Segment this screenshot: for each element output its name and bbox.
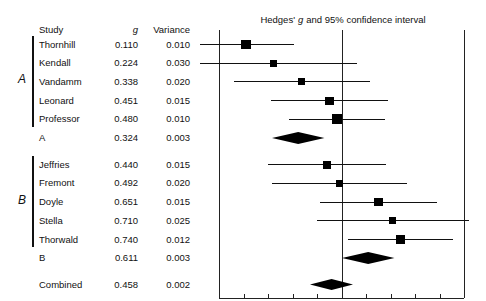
group-bracket-a	[32, 36, 34, 127]
plot-clip-region	[200, 0, 486, 298]
table-cell-g-vandamm: 0.338	[96, 76, 138, 87]
x-tick-0-8	[415, 294, 416, 298]
x-tick-0-1	[244, 294, 245, 298]
effect-marker-leonard	[325, 97, 333, 105]
effect-marker-vandamm	[298, 78, 305, 85]
table-row-study-leonard: Leonard	[39, 95, 74, 106]
table-cell-variance-b: 0.003	[146, 252, 190, 263]
summary-diamond-a	[272, 132, 324, 144]
column-header-study: Study	[39, 24, 63, 35]
table-cell-g-fremont: 0.492	[96, 177, 138, 188]
column-header-variance: Variance	[146, 24, 190, 35]
table-cell-g-jeffries: 0.440	[96, 159, 138, 170]
table-cell-variance-professor: 0.010	[146, 113, 190, 124]
table-cell-g-a: 0.324	[96, 132, 138, 143]
table-cell-variance-stella: 0.025	[146, 215, 190, 226]
summary-diamond-combined	[310, 279, 353, 290]
effect-marker-thornhill	[241, 40, 251, 50]
table-cell-variance-thorwald: 0.012	[146, 234, 190, 245]
x-tick-1-0	[464, 294, 465, 298]
group-bracket-b	[32, 156, 34, 247]
table-row-study-jeffries: Jeffries	[39, 159, 69, 170]
table-cell-g-b: 0.611	[96, 252, 138, 263]
table-cell-g-professor: 0.480	[96, 113, 138, 124]
effect-marker-stella	[389, 217, 396, 224]
table-cell-variance-leonard: 0.015	[146, 95, 190, 106]
table-cell-variance-combined: 0.002	[146, 279, 190, 290]
table-cell-variance-jeffries: 0.015	[146, 159, 190, 170]
table-cell-g-leonard: 0.451	[96, 95, 138, 106]
table-row-study-b: B	[39, 252, 45, 263]
table-row-study-thornhill: Thornhill	[39, 39, 75, 50]
x-tick-0-7	[391, 294, 392, 298]
table-row-study-fremont: Fremont	[39, 177, 74, 188]
x-tick-0-4	[317, 294, 318, 298]
x-tick-0-5	[342, 294, 343, 298]
effect-marker-fremont	[336, 180, 343, 187]
effect-marker-doyle	[374, 198, 382, 206]
table-cell-g-doyle: 0.651	[96, 196, 138, 207]
table-cell-g-combined: 0.458	[96, 279, 138, 290]
table-row-study-kendall: Kendall	[39, 57, 71, 68]
table-row-study-professor: Professor	[39, 113, 80, 124]
ci-line-kendall	[200, 63, 357, 64]
x-axis-line	[219, 298, 464, 299]
table-row-study-vandamm: Vandamm	[39, 76, 82, 87]
table-cell-g-thorwald: 0.740	[96, 234, 138, 245]
table-cell-variance-kendall: 0.030	[146, 57, 190, 68]
table-cell-g-stella: 0.710	[96, 215, 138, 226]
table-row-study-a: A	[39, 132, 45, 143]
x-tick-0-6	[366, 294, 367, 298]
x-tick-0-0	[219, 294, 220, 298]
study-table: Study g Variance ABThornhill0.1100.010Ke…	[0, 0, 200, 301]
table-cell-variance-vandamm: 0.020	[146, 76, 190, 87]
summary-diamond-b	[342, 252, 394, 264]
table-cell-variance-a: 0.003	[146, 132, 190, 143]
table-row-study-stella: Stella	[39, 215, 63, 226]
effect-marker-professor	[332, 114, 342, 124]
table-row-study-thorwald: Thorwald	[39, 234, 78, 245]
effect-marker-thorwald	[396, 235, 405, 244]
table-row-study-doyle: Doyle	[39, 196, 63, 207]
table-cell-g-thornhill: 0.110	[96, 39, 138, 50]
table-cell-variance-thornhill: 0.010	[146, 39, 190, 50]
x-tick-0-3	[293, 294, 294, 298]
table-row-study-combined: Combined	[39, 279, 82, 290]
group-label-a: A	[18, 72, 26, 86]
table-cell-variance-doyle: 0.015	[146, 196, 190, 207]
column-header-g: g	[96, 24, 138, 35]
effect-marker-kendall	[270, 60, 277, 67]
forest-plot-panel: Hedges'gand 95% confidence interval 0.00…	[200, 0, 486, 301]
table-cell-variance-fremont: 0.020	[146, 177, 190, 188]
forest-plot-figure: Study g Variance ABThornhill0.1100.010Ke…	[0, 0, 486, 301]
group-label-b: B	[18, 193, 26, 207]
x-tick-0-9	[440, 294, 441, 298]
effect-marker-jeffries	[323, 161, 331, 169]
table-cell-g-kendall: 0.224	[96, 57, 138, 68]
x-tick-0-2	[268, 294, 269, 298]
